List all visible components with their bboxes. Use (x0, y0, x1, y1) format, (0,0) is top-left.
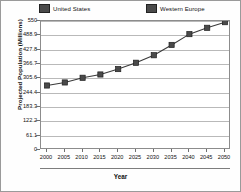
x-axis-tick (153, 149, 154, 152)
y-axis-labels: 550488.9427.8366.7305.6244.4183.3122.261… (11, 1, 37, 192)
x-axis-tick (171, 149, 172, 152)
data-point-marker (62, 80, 67, 85)
y-axis-tick-label: 550 (11, 17, 37, 23)
x-axis-tick (135, 149, 136, 152)
x-axis-tick-label: 2040 (182, 154, 194, 160)
data-point-marker (151, 53, 156, 58)
data-point-marker (205, 25, 210, 30)
legend-label-united-states: United States (53, 6, 90, 12)
series-line-united-states (47, 22, 225, 85)
x-axis-tick (46, 149, 47, 152)
data-point-marker (169, 42, 174, 47)
chart-legend: United States Western Europe (39, 4, 227, 15)
data-point-marker (116, 66, 121, 71)
series-markers-united-states (44, 21, 227, 88)
x-axis-tick (117, 149, 118, 152)
y-axis-tick-label: 427.8 (11, 46, 37, 52)
x-axis-baseline (40, 168, 230, 169)
y-axis-tick-label: 488.9 (11, 31, 37, 37)
chart-figure: United States Western Europe Projected P… (0, 0, 241, 192)
y-axis-tick-label: 61.1 (11, 132, 37, 138)
y-axis-tick-label: 122.2 (11, 117, 37, 123)
legend-swatch-united-states (39, 4, 50, 13)
x-axis-tick-label: 2015 (93, 154, 105, 160)
data-point-marker (44, 83, 49, 88)
plot-area (40, 20, 230, 149)
x-axis-tick (188, 149, 189, 152)
x-axis-tick-label: 2035 (164, 154, 176, 160)
x-axis-tick (82, 149, 83, 152)
x-axis-title: Year (1, 173, 240, 180)
x-axis-tick-label: 2005 (58, 154, 70, 160)
data-point-marker (80, 75, 85, 80)
legend-label-western-europe: Western Europe (160, 6, 205, 12)
x-axis-tick-label: 2045 (200, 154, 212, 160)
x-axis-tick (64, 149, 65, 152)
y-axis-tick-label: 366.7 (11, 60, 37, 66)
y-axis-tick-label: 244.4 (11, 89, 37, 95)
x-axis-tick-label: 2000 (40, 154, 52, 160)
x-axis-tick-label: 2030 (147, 154, 159, 160)
series-united-states (41, 21, 231, 150)
y-axis-tick-label: 183.3 (11, 103, 37, 109)
x-axis-tick-label: 2010 (75, 154, 87, 160)
legend-item-western-europe: Western Europe (146, 4, 205, 13)
legend-item-united-states: United States (39, 4, 90, 13)
x-axis-tick (206, 149, 207, 152)
x-axis-tick-label: 2050 (218, 154, 230, 160)
x-axis-tick (224, 149, 225, 152)
y-axis-tick (36, 149, 40, 150)
x-axis-tick-label: 2020 (111, 154, 123, 160)
data-point-marker (98, 72, 103, 77)
y-axis-tick-label: 305.6 (11, 74, 37, 80)
data-point-marker (222, 21, 227, 25)
data-point-marker (133, 60, 138, 65)
legend-swatch-western-europe (146, 4, 157, 13)
y-axis-tick-label: 0 (11, 146, 37, 152)
x-axis-tick (99, 149, 100, 152)
data-point-marker (187, 32, 192, 37)
x-axis-tick-label: 2025 (129, 154, 141, 160)
